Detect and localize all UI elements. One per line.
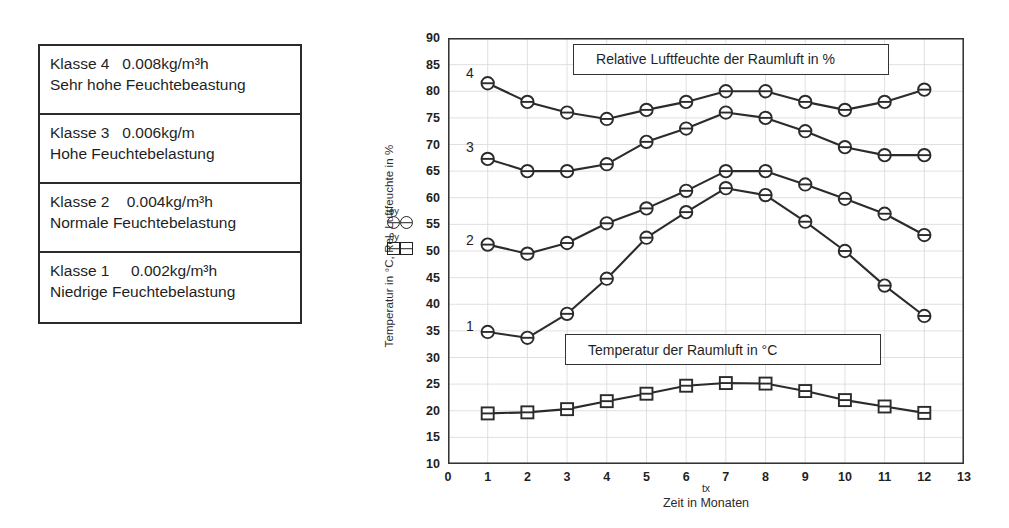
klasse-1-description: Niedrige Feuchtebelastung	[50, 281, 290, 302]
curve-index-label: 2	[466, 232, 474, 248]
moisture-class-table: Klasse 4 0.008kg/m³h Sehr hohe Feuchtebe…	[38, 44, 302, 324]
y-axis-tick-label: 15	[410, 430, 440, 444]
y-axis-tick-label: 25	[410, 377, 440, 391]
y-axis-tick-label: 10	[410, 457, 440, 471]
series-line	[488, 83, 925, 119]
chart: Temperatur in °C, Rel. Luftfeuchte in % …	[348, 18, 998, 518]
klasse-3-class-and-rate: Klasse 3 0.006kg/m	[50, 122, 290, 143]
klasse-2-class-and-rate: Klasse 2 0.004kg/m³h	[50, 191, 290, 212]
y-axis-tick-label: 65	[410, 164, 440, 178]
annotation-box: Relative Luftfeuchte der Raumluft in %	[573, 44, 889, 75]
circle-marker-icon	[387, 216, 400, 229]
y-axis-tick-label: 70	[410, 138, 440, 152]
curve-index-label: 3	[466, 139, 474, 155]
series-line	[488, 171, 925, 254]
table-row: Klasse 4 0.008kg/m³h Sehr hohe Feuchtebe…	[40, 46, 300, 115]
y-axis-tick-label: 60	[410, 191, 440, 205]
humidity-symbol-label: ϕy	[386, 205, 432, 216]
y-axis-tick-label: 35	[410, 324, 440, 338]
series-line	[488, 383, 925, 413]
klasse-4-class-and-rate: Klasse 4 0.008kg/m³h	[50, 53, 290, 74]
table-row: Klasse 3 0.006kg/m Hohe Feuchtebelastung	[40, 115, 300, 184]
curve-index-label: 4	[466, 65, 474, 81]
y-axis-tick-label: 45	[410, 271, 440, 285]
plot-area: 1015202530354045505560657075808590 01234…	[448, 38, 964, 464]
klasse-4-description: Sehr hohe Feuchtebeastung	[50, 74, 290, 95]
klasse-1-class-and-rate: Klasse 1 0.002kg/m³h	[50, 260, 290, 281]
y-axis-tick-label: 50	[410, 244, 440, 258]
x-axis-title: Zeit in Monaten	[448, 495, 964, 511]
x-axis-variable: tx	[448, 482, 964, 495]
y-axis-tick-label: 20	[410, 404, 440, 418]
annotation-box: Temperatur der Raumluft in °C	[565, 334, 881, 365]
klasse-2-description: Normale Feuchtebelastung	[50, 212, 290, 233]
y-axis-tick-label: 85	[410, 58, 440, 72]
data-series	[481, 165, 930, 260]
temperature-symbol-label: θy	[386, 231, 432, 242]
y-axis-tick-label: 75	[410, 111, 440, 125]
y-axis-tick-label: 55	[410, 217, 440, 231]
y-axis-tick-label: 90	[410, 31, 440, 45]
klasse-3-description: Hohe Feuchtebelastung	[50, 143, 290, 164]
series-line	[488, 188, 925, 338]
curve-index-label: 1	[466, 318, 474, 334]
series-line	[488, 113, 925, 172]
y-axis-tick-label: 80	[410, 84, 440, 98]
plot-canvas	[448, 38, 964, 464]
y-axis-tick-label: 30	[410, 351, 440, 365]
data-series	[481, 106, 930, 177]
y-axis-tick-label: 40	[410, 297, 440, 311]
data-series	[482, 377, 931, 419]
table-row: Klasse 1 0.002kg/m³h Niedrige Feuchtebel…	[40, 253, 300, 322]
table-row: Klasse 2 0.004kg/m³h Normale Feuchtebela…	[40, 184, 300, 253]
square-marker-icon	[387, 242, 400, 255]
x-axis-caption: tx Zeit in Monaten	[448, 482, 964, 511]
data-series-layer	[481, 77, 930, 419]
